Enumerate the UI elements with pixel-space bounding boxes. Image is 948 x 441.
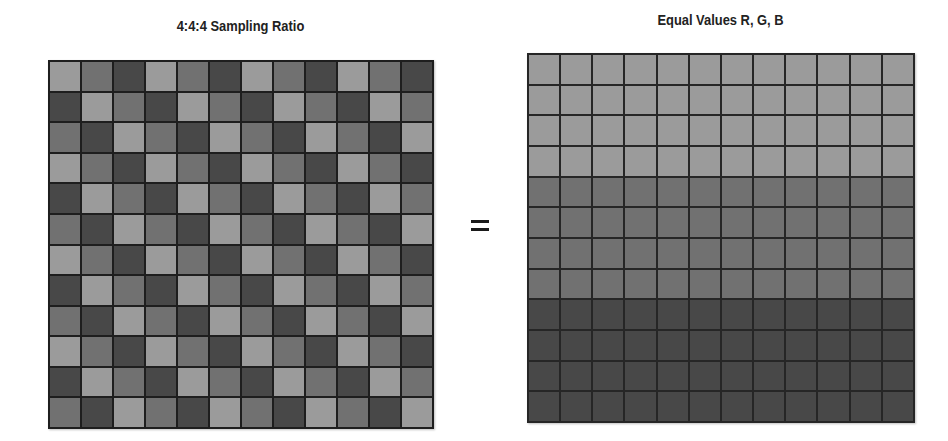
grid-cell-dark	[690, 300, 720, 329]
grid-cell-dark	[851, 362, 881, 391]
grid-cell-light	[338, 62, 368, 91]
grid-cell-dark	[274, 307, 304, 336]
grid-cell-light	[146, 246, 176, 275]
grid-cell-light	[82, 93, 112, 122]
grid-cell-medium	[242, 307, 272, 336]
grid-cell-medium	[338, 215, 368, 244]
grid-cell-medium	[274, 337, 304, 366]
grid-cell-dark	[370, 307, 400, 336]
grid-cell-light	[690, 86, 720, 115]
grid-cell-dark	[370, 215, 400, 244]
grid-cell-medium	[786, 239, 816, 268]
grid-cell-dark	[883, 331, 913, 360]
grid-cell-medium	[402, 93, 432, 122]
grid-cell-light	[402, 215, 432, 244]
grid-cell-light	[818, 86, 848, 115]
grid-cell-dark	[306, 154, 336, 183]
grid-cell-medium	[210, 93, 240, 122]
grid-cell-dark	[82, 307, 112, 336]
grid-cell-dark	[338, 184, 368, 213]
grid-cell-light	[114, 398, 144, 427]
grid-cell-medium	[625, 178, 655, 207]
grid-cell-light	[402, 123, 432, 152]
grid-cell-light	[561, 116, 591, 145]
grid-cell-dark	[593, 392, 623, 421]
grid-cell-dark	[529, 300, 559, 329]
grid-cell-dark	[274, 398, 304, 427]
grid-cell-light	[370, 184, 400, 213]
grid-cell-light	[818, 116, 848, 145]
grid-cell-light	[82, 276, 112, 305]
grid-cell-light	[593, 86, 623, 115]
grid-cell-dark	[114, 154, 144, 183]
grid-cell-medium	[114, 276, 144, 305]
grid-cell-dark	[658, 331, 688, 360]
grid-cell-medium	[851, 208, 881, 237]
grid-cell-light	[114, 123, 144, 152]
grid-cell-dark	[306, 62, 336, 91]
grid-cell-light	[754, 116, 784, 145]
grid-cell-dark	[402, 246, 432, 275]
grid-cell-light	[625, 55, 655, 84]
grid-cell-dark	[114, 337, 144, 366]
grid-cell-light	[561, 86, 591, 115]
grid-cell-medium	[561, 239, 591, 268]
grid-cell-dark	[754, 392, 784, 421]
grid-cell-light	[178, 93, 208, 122]
grid-cell-medium	[851, 239, 881, 268]
grid-cell-dark	[210, 62, 240, 91]
grid-cell-dark	[561, 392, 591, 421]
grid-cell-medium	[50, 307, 80, 336]
grid-cell-medium	[82, 62, 112, 91]
left-panel-title: 4:4:4 Sampling Ratio	[75, 17, 406, 34]
grid-cell-medium	[786, 270, 816, 299]
right-panel-title: Equal Values R, G, B	[554, 11, 887, 28]
grid-cell-dark	[210, 337, 240, 366]
grid-cell-dark	[178, 215, 208, 244]
grid-cell-dark	[50, 368, 80, 397]
grid-cell-medium	[210, 276, 240, 305]
grid-cell-light	[722, 55, 752, 84]
grid-cell-light	[114, 215, 144, 244]
grid-cell-light	[274, 368, 304, 397]
grid-cell-light	[722, 116, 752, 145]
grid-cell-dark	[402, 62, 432, 91]
grid-cell-dark	[402, 154, 432, 183]
grid-cell-light	[786, 147, 816, 176]
grid-cell-light	[722, 147, 752, 176]
grid-cell-dark	[722, 331, 752, 360]
grid-cell-light	[274, 93, 304, 122]
grid-cell-medium	[625, 208, 655, 237]
grid-cell-light	[690, 147, 720, 176]
grid-cell-medium	[561, 208, 591, 237]
grid-cell-medium	[593, 270, 623, 299]
grid-cell-light	[146, 62, 176, 91]
grid-cell-dark	[625, 331, 655, 360]
grid-cell-dark	[338, 276, 368, 305]
grid-cell-light	[625, 116, 655, 145]
grid-cell-dark	[210, 246, 240, 275]
grid-cell-light	[210, 123, 240, 152]
grid-cell-light	[50, 337, 80, 366]
grid-cell-medium	[402, 184, 432, 213]
grid-cell-light	[210, 398, 240, 427]
grid-cell-dark	[242, 276, 272, 305]
grid-cell-light	[306, 307, 336, 336]
grid-cell-dark	[593, 331, 623, 360]
grid-cell-medium	[82, 246, 112, 275]
grid-cell-medium	[690, 270, 720, 299]
grid-cell-dark	[722, 392, 752, 421]
grid-cell-medium	[593, 208, 623, 237]
grid-cell-medium	[561, 178, 591, 207]
grid-cell-dark	[146, 276, 176, 305]
grid-cell-light	[114, 307, 144, 336]
grid-cell-medium	[658, 239, 688, 268]
grid-cell-light	[818, 55, 848, 84]
grid-cell-light	[883, 147, 913, 176]
grid-cell-dark	[722, 362, 752, 391]
grid-cell-dark	[274, 123, 304, 152]
grid-cell-medium	[818, 178, 848, 207]
grid-cell-medium	[82, 154, 112, 183]
grid-cell-medium	[146, 123, 176, 152]
grid-cell-medium	[658, 208, 688, 237]
